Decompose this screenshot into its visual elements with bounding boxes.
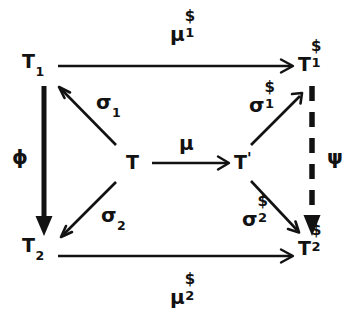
node-t1-base: T (22, 50, 35, 72)
node-t-prime-base: T (234, 151, 247, 173)
node-t1-dollar-sub: 1 (311, 56, 320, 69)
commutative-diagram: T1 T$1 T T' T2 T$2 μ$1 μ$2 ϕ ψ μ σ1 σ2 σ… (0, 0, 357, 326)
node-t1-dollar-affixes: $1 (311, 52, 320, 71)
arrow-mu2-dollar (58, 250, 293, 263)
edge-label-mu: μ (179, 133, 194, 153)
edge-label-mu2-dollar-affixes: $2 (185, 285, 194, 304)
edge-label-mu2-dollar-base: μ (170, 285, 185, 309)
node-t1-dollar: T$1 (298, 52, 320, 74)
edge-label-sigma2: σ2 (101, 205, 125, 229)
edge-label-mu2-dollar: μ$2 (170, 285, 194, 307)
edge-label-sigma1-dollar: σ$1 (249, 93, 274, 115)
edge-label-sigma2-dollar-sup: $ (258, 194, 268, 209)
node-t2-base: T (22, 234, 35, 256)
diagram-arrows-canvas (0, 0, 357, 326)
edge-label-mu1-dollar-sub: 1 (185, 26, 194, 39)
edge-label-phi-base: ϕ (12, 145, 28, 169)
arrow-phi (36, 86, 53, 236)
node-t2-dollar-sup: $ (311, 223, 321, 238)
edge-label-sigma2-dollar-base: σ (242, 207, 258, 231)
node-t2-dollar-base: T (298, 237, 311, 259)
edge-label-mu1-dollar-base: μ (170, 22, 185, 46)
edge-label-sigma1-dollar-sup: $ (265, 80, 275, 95)
arrow-mu (152, 157, 229, 170)
edge-label-sigma2-dollar-affixes: $2 (258, 207, 267, 226)
arrow-psi (304, 86, 321, 236)
node-t2-dollar-sub: 2 (311, 240, 320, 253)
node-t1-dollar-base: T (298, 53, 311, 75)
node-t1-sub: 1 (35, 64, 44, 79)
edge-label-sigma2-base: σ (101, 203, 117, 227)
edge-label-psi-base: ψ (327, 145, 343, 169)
node-t-base: T (126, 151, 139, 173)
edge-label-sigma2-dollar: σ$2 (242, 207, 267, 229)
edge-label-sigma1-dollar-affixes: $1 (265, 93, 274, 112)
edge-label-psi: ψ (327, 147, 343, 167)
node-t-prime-mark: ' (247, 150, 252, 168)
edge-label-mu1-dollar: μ$1 (170, 22, 194, 44)
edge-label-sigma1-base: σ (96, 90, 112, 114)
edge-label-sigma1-dollar-sub: 1 (265, 97, 274, 110)
node-t: T (126, 153, 139, 172)
edge-label-mu2-dollar-sup: $ (185, 272, 195, 287)
edge-label-sigma1: σ1 (96, 92, 120, 116)
node-t2: T2 (22, 236, 44, 259)
node-t-prime: T' (234, 153, 252, 172)
edge-label-mu-base: μ (179, 131, 194, 155)
edge-label-sigma1-sub: 1 (112, 105, 121, 120)
node-t2-dollar-affixes: $2 (311, 236, 320, 255)
edge-label-mu2-dollar-sub: 2 (185, 289, 194, 302)
edge-label-sigma2-sub: 2 (117, 218, 126, 233)
edge-label-phi: ϕ (12, 147, 28, 167)
node-t2-sub: 2 (35, 248, 44, 263)
edge-label-mu1-dollar-sup: $ (185, 9, 195, 24)
node-t1-dollar-sup: $ (311, 39, 321, 54)
node-t2-dollar: T$2 (298, 236, 320, 258)
edge-label-mu1-dollar-affixes: $1 (185, 22, 194, 41)
edge-label-sigma2-dollar-sub: 2 (258, 211, 267, 224)
arrow-mu1-dollar (58, 60, 293, 73)
node-t1: T1 (22, 52, 44, 75)
edge-label-sigma1-dollar-base: σ (249, 93, 265, 117)
